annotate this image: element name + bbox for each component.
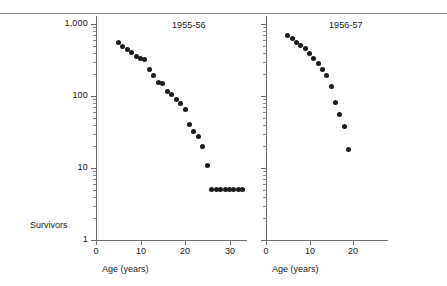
data-point	[183, 107, 188, 112]
data-point	[342, 124, 347, 129]
y-tick-minor	[93, 62, 96, 63]
y-tick-minor	[93, 74, 96, 75]
x-tick-label: 20	[170, 246, 200, 256]
data-point	[307, 51, 312, 56]
data-point	[333, 100, 338, 105]
y-tick-minor	[93, 171, 96, 172]
y-tick-minor	[263, 103, 266, 104]
x-tick-major	[353, 241, 354, 245]
y-tick-minor	[263, 190, 266, 191]
data-point	[324, 73, 329, 78]
y-tick-minor	[93, 35, 96, 36]
x-axis-title-right: Age (years)	[272, 264, 319, 274]
y-tick-minor	[93, 99, 96, 100]
y-tick-minor	[93, 46, 96, 47]
data-point	[147, 67, 152, 72]
x-tick-major	[185, 241, 186, 245]
y-axis-line-right	[266, 16, 267, 240]
data-point	[160, 81, 165, 86]
y-tick-minor	[93, 112, 96, 113]
y-tick-minor	[263, 134, 266, 135]
y-tick-minor	[93, 118, 96, 119]
data-point	[169, 92, 174, 97]
y-tick-minor	[93, 134, 96, 135]
y-tick-major	[261, 96, 266, 97]
data-point	[316, 61, 321, 66]
data-point	[200, 144, 205, 149]
y-tick-minor	[93, 175, 96, 176]
y-tick-minor	[263, 125, 266, 126]
data-point	[151, 73, 156, 78]
top-rule	[0, 13, 447, 14]
y-tick-minor	[93, 218, 96, 219]
x-axis-line-right	[266, 240, 388, 241]
y-tick-minor	[263, 31, 266, 32]
y-tick-minor	[263, 99, 266, 100]
y-tick-minor	[93, 197, 96, 198]
y-tick-minor	[93, 206, 96, 207]
y-tick-minor	[93, 107, 96, 108]
y-tick-minor	[263, 40, 266, 41]
x-tick-label: 10	[295, 246, 325, 256]
y-tick-minor	[93, 125, 96, 126]
y-tick-major	[91, 96, 96, 97]
x-tick-major	[230, 241, 231, 245]
y-axis-line-left	[96, 16, 97, 240]
x-tick-label: 0	[81, 246, 111, 256]
y-tick-minor	[93, 27, 96, 28]
data-point	[178, 101, 183, 106]
y-tick-minor	[93, 53, 96, 54]
y-tick-minor	[263, 206, 266, 207]
y-tick-minor	[263, 46, 266, 47]
y-tick-major	[261, 24, 266, 25]
survivorship-figure: 1955-56 1,000100101 0102030 Age (years) …	[0, 0, 447, 286]
data-point	[311, 56, 316, 61]
data-point	[142, 57, 147, 62]
y-tick-minor	[263, 112, 266, 113]
y-tick-minor	[263, 175, 266, 176]
y-tick-minor	[263, 62, 266, 63]
panel-title-left: 1955-56	[172, 20, 206, 30]
y-tick-minor	[93, 190, 96, 191]
x-axis-line-left	[96, 240, 247, 241]
y-tick-label: 100	[48, 90, 88, 100]
data-point	[196, 134, 201, 139]
data-point	[329, 84, 334, 89]
y-tick-minor	[93, 146, 96, 147]
data-point	[346, 147, 351, 152]
data-point	[191, 129, 196, 134]
y-tick-minor	[93, 103, 96, 104]
data-point	[187, 122, 192, 127]
x-tick-major	[141, 241, 142, 245]
y-tick-minor	[93, 179, 96, 180]
y-tick-minor	[263, 74, 266, 75]
y-tick-minor	[263, 35, 266, 36]
y-tick-minor	[93, 31, 96, 32]
y-tick-minor	[263, 218, 266, 219]
y-tick-minor	[93, 40, 96, 41]
y-tick-minor	[263, 184, 266, 185]
x-tick-label: 30	[215, 246, 245, 256]
y-tick-label: 10	[48, 162, 88, 172]
y-tick-minor	[263, 179, 266, 180]
x-tick-major	[266, 241, 267, 245]
data-point	[240, 187, 245, 192]
y-tick-major	[261, 168, 266, 169]
x-axis-title-left: Age (years)	[102, 264, 149, 274]
x-tick-major	[96, 241, 97, 245]
y-tick-label: 1	[48, 234, 88, 244]
x-tick-major	[310, 241, 311, 245]
y-tick-minor	[263, 118, 266, 119]
y-tick-minor	[263, 197, 266, 198]
y-tick-minor	[263, 171, 266, 172]
y-tick-major	[91, 24, 96, 25]
y-axis-title: Survivors	[30, 220, 68, 230]
y-tick-minor	[93, 184, 96, 185]
x-tick-label: 10	[126, 246, 156, 256]
panel-title-right: 1956-57	[329, 20, 363, 30]
y-tick-label: 1,000	[48, 18, 88, 28]
data-point	[337, 112, 342, 117]
y-tick-minor	[263, 146, 266, 147]
x-tick-label: 0	[251, 246, 281, 256]
y-tick-minor	[263, 27, 266, 28]
